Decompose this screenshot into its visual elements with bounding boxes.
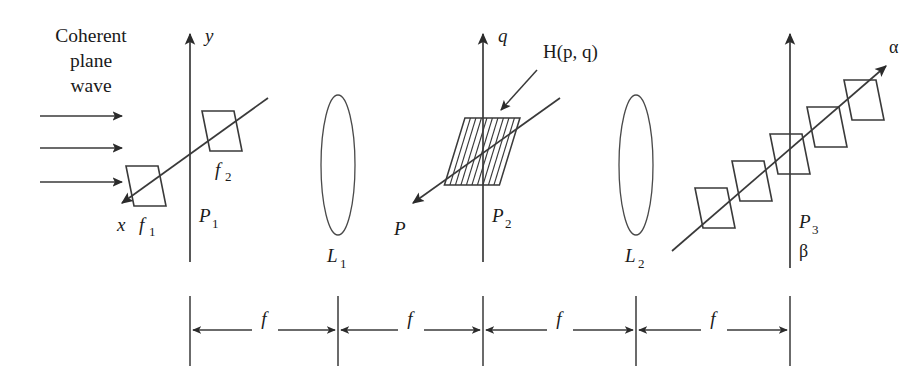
output-parallelogram-4 [807,107,847,147]
dimension-segment-2: f [341,308,480,334]
f1-subscript: 1 [149,224,156,239]
plane-label-p1: P 1 [198,205,219,231]
coherent-plane-wave-caption: Coherent plane wave [55,25,127,96]
dimension-segment-4: f [639,308,787,334]
f2-label: f [215,159,223,180]
l1-subscript: 1 [340,256,347,271]
dimension-segment-3: f [486,308,633,334]
l2-subscript: 2 [638,256,645,271]
x-axis-line [122,98,268,203]
plane-p1-group: y x f 1 f 2 P 1 [116,25,268,262]
l2-label: L [624,245,636,266]
p3-label: P [798,211,811,232]
y-axis-label: y [203,25,214,46]
p1-subscript: 1 [212,216,219,231]
alpha-axis-label: α [889,37,899,57]
lens-l1-shape [321,95,355,235]
object-parallelogram-f1: f 1 [126,166,166,239]
incoming-wave-arrows [40,116,122,182]
p3-subscript: 3 [812,222,819,237]
p-axis-line [413,98,560,203]
plane-label-p3: P 3 [798,211,819,237]
object-parallelogram-f2: f 2 [202,111,242,184]
dimension-segment-1: f [193,308,335,334]
q-axis-label: q [498,25,508,46]
plane-p3-group: α β P 3 [672,34,899,268]
plane-p2-group: q P H(p, q) P 2 [393,25,598,262]
beta-axis-label: β [799,241,808,261]
x-axis-label: x [116,214,126,235]
filter-label: H(p, q) [543,41,598,63]
lens-l1-group: L 1 [321,95,355,271]
f2-subscript: 2 [225,169,232,184]
caption-line-3: wave [70,75,111,96]
alpha-axis-line [672,66,886,251]
lens-l2-group: L 2 [619,95,653,271]
focal-length-dimension-bar: f f f f [190,296,790,366]
p2-label: P [491,205,504,226]
plane-label-p2: P 2 [491,205,512,231]
p1-label: P [198,205,211,226]
lens-l2-shape [619,95,653,235]
l1-label: L [326,245,338,266]
caption-line-1: Coherent [55,25,127,46]
p-axis-label: P [393,218,406,239]
p2-subscript: 2 [505,216,512,231]
optical-system-diagram: Coherent plane wave y x f 1 f 2 P 1 [0,0,921,383]
output-parallelogram-1 [695,188,735,228]
f1-label: f [139,214,147,235]
caption-line-2: plane [70,50,112,71]
filter-pointer-arrow [501,70,537,110]
